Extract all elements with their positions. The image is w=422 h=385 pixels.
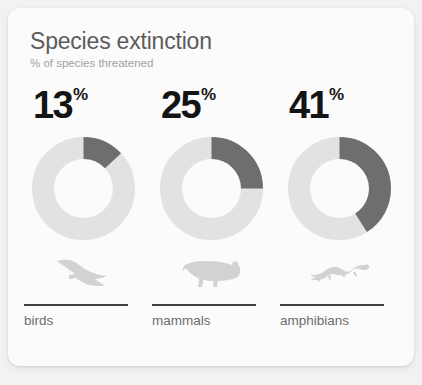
icon-wrap-mammals [152, 244, 270, 292]
donut-wrap-amphibians [280, 132, 398, 244]
label-rule-amphibians [280, 304, 384, 306]
stat-birds: 13 % [24, 84, 88, 132]
salamander-icon [307, 260, 371, 290]
label-mammals: mammals [152, 313, 270, 329]
stat-value-birds: 13 [33, 84, 72, 126]
donut-wrap-birds [24, 132, 142, 244]
stat-columns: 13 % birds 25 % [24, 84, 398, 329]
stat-column-mammals: 25 % mammals [152, 84, 270, 329]
label-wrap-amphibians: amphibians [280, 304, 398, 329]
header: Species extinction % of species threaten… [30, 28, 390, 70]
icon-wrap-amphibians [280, 244, 398, 292]
label-rule-birds [24, 304, 128, 306]
label-wrap-birds: birds [24, 304, 142, 329]
stat-mammals: 25 % [152, 84, 216, 132]
donut-wrap-mammals [152, 132, 270, 244]
label-wrap-mammals: mammals [152, 304, 270, 329]
icon-wrap-birds [24, 244, 142, 292]
eagle-icon [53, 258, 113, 290]
stat-column-amphibians: 41 % amphibians [280, 84, 398, 329]
stat-value-mammals: 25 [161, 84, 200, 126]
donut-chart-mammals [160, 137, 263, 240]
stat-unit-amphibians: % [329, 84, 344, 105]
page-subtitle: % of species threatened [30, 56, 390, 70]
bear-icon [180, 258, 242, 290]
stat-unit-birds: % [73, 84, 88, 105]
infographic-card: Species extinction % of species threaten… [8, 8, 414, 366]
label-rule-mammals [152, 304, 256, 306]
page-title: Species extinction [30, 28, 390, 54]
stat-amphibians: 41 % [280, 84, 344, 132]
stat-column-birds: 13 % birds [24, 84, 142, 329]
stat-value-amphibians: 41 [289, 84, 328, 126]
label-birds: birds [24, 313, 142, 329]
donut-chart-birds [32, 137, 135, 240]
stat-unit-mammals: % [201, 84, 216, 105]
donut-chart-amphibians [288, 137, 391, 240]
label-amphibians: amphibians [280, 313, 398, 329]
